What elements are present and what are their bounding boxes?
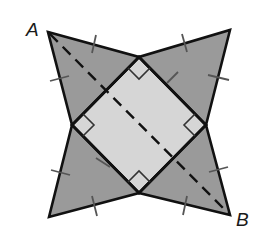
label-b: B bbox=[236, 209, 249, 230]
geometry-diagram: A B bbox=[0, 0, 261, 238]
label-a: A bbox=[25, 19, 39, 40]
